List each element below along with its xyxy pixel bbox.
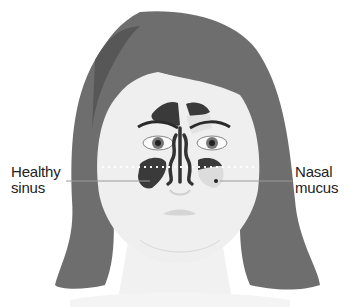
nasal-mucus-label: Nasal mucus [295,164,338,196]
healthy-sinus-label: Healthy sinus [11,164,60,196]
label-line: mucus [295,180,338,196]
label-line: Healthy [11,164,60,180]
sinus-diagram: Healthy sinus Nasal mucus [0,0,350,307]
face-illustration [0,0,350,307]
label-line: Nasal [295,164,338,180]
label-line: sinus [11,180,60,196]
